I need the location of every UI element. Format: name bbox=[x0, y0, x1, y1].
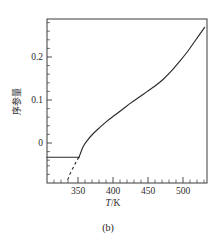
y-tick-label-1: 0.1 bbox=[31, 95, 43, 105]
plot-frame bbox=[47, 19, 207, 183]
series-stable-branch bbox=[79, 27, 205, 157]
x-axis-title: T/K bbox=[106, 198, 121, 208]
y-tick-label-0: 0 bbox=[38, 138, 43, 148]
x-axis-major-ticks bbox=[78, 177, 183, 183]
y-axis-major-ticks bbox=[47, 57, 52, 143]
svg-text:T/K: T/K bbox=[106, 198, 121, 208]
bifurcation-chart: 0 0.1 0.2 350 400 450 500 T/K 序参量 (b) bbox=[0, 0, 217, 245]
x-tick-label-1: 400 bbox=[106, 186, 121, 196]
x-tick-label-3: 500 bbox=[176, 186, 191, 196]
figure-container: 0 0.1 0.2 350 400 450 500 T/K 序参量 (b) bbox=[0, 0, 217, 245]
x-tick-label-0: 350 bbox=[71, 186, 86, 196]
x-axis-minor-ticks bbox=[54, 180, 204, 184]
x-tick-label-2: 450 bbox=[141, 186, 156, 196]
x-axis-title-unit: K bbox=[114, 198, 121, 208]
figure-caption: (b) bbox=[102, 222, 114, 234]
y-axis-title: 序参量 bbox=[11, 88, 22, 115]
series-unstable-branch bbox=[67, 157, 79, 182]
y-tick-label-2: 0.2 bbox=[31, 52, 43, 62]
